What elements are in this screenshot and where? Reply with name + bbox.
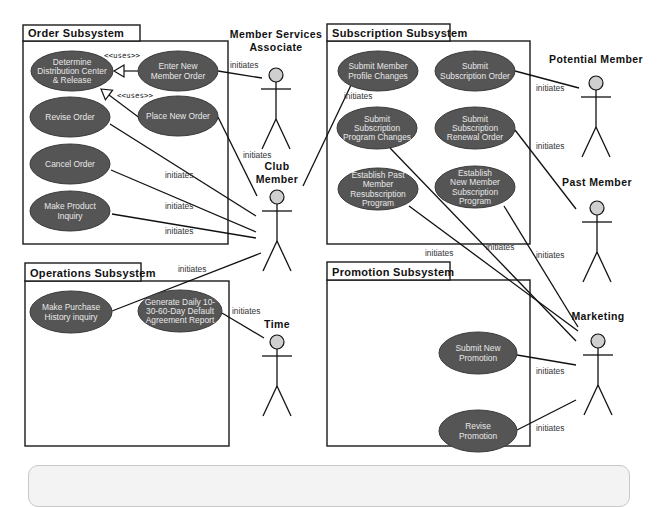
frame-title: Operations Subsystem [30, 267, 156, 279]
actor-head-icon [589, 76, 603, 90]
association-label: initiates [178, 264, 206, 274]
use-case-place-new[interactable]: Place New Order [138, 96, 218, 136]
use-case-new-member-program[interactable]: EstablishNew MemberSubscriptionProgram [435, 166, 515, 208]
association-label: initiates [486, 242, 514, 252]
use-case-subscription-order[interactable]: SubmitSubscription Order [435, 51, 515, 91]
use-case-renewal-order[interactable]: SubmitSubscriptionRenewal Order [435, 107, 515, 149]
use-case-generate-report[interactable]: Generate Daily 10-30-60-Day DefaultAgree… [138, 290, 222, 332]
use-case-new-promotion[interactable]: Submit NewPromotion [439, 332, 517, 374]
use-case-past-resub[interactable]: Establish PastMemberResubscriptionProgra… [338, 168, 418, 210]
actor-name: Potential Member [549, 53, 643, 65]
use-case-profile-changes[interactable]: Submit MemberProfile Changes [338, 51, 418, 91]
actor-head-icon [269, 68, 283, 82]
actor-left-leg [263, 386, 277, 416]
actor-club-member[interactable]: ClubMember [256, 160, 299, 271]
actor-head-icon [270, 335, 284, 349]
association-label: initiates [536, 250, 564, 260]
use-case-enter-new[interactable]: Enter NewMember Order [138, 51, 218, 91]
actor-name: Member Services [230, 28, 322, 40]
use-case-label: Program Changes [343, 132, 411, 142]
actor-past-member[interactable]: Past Member [562, 176, 632, 282]
use-case-label: Profile Changes [348, 71, 408, 81]
actor-left-leg [263, 241, 277, 271]
use-case-label: Program [459, 196, 491, 206]
actor-right-leg [597, 252, 611, 282]
use-case-purchase-history[interactable]: Make PurchaseHistory inquiry [30, 291, 112, 333]
association-label: initiates [232, 306, 260, 316]
association-label: initiates [425, 248, 453, 258]
use-case-label: Program [362, 198, 394, 208]
use-case-label: & Release [53, 75, 92, 85]
association-label: initiates [165, 201, 193, 211]
use-case-label: Subscription Order [440, 71, 510, 81]
use-case-label: History inquiry [44, 312, 98, 322]
actor-marketing[interactable]: Marketing [571, 310, 624, 415]
actor-right-leg [276, 119, 290, 149]
uses-label: <<uses>> [104, 51, 141, 60]
association-label: initiates [243, 150, 271, 160]
use-case-product-inquiry[interactable]: Make ProductInquiry [30, 191, 110, 231]
use-case-label: Member Order [151, 71, 206, 81]
actor-head-icon [590, 201, 604, 215]
use-case-cancel-order[interactable]: Cancel Order [30, 144, 110, 184]
frame-title: Order Subsystem [28, 27, 124, 39]
use-case-determine[interactable]: DetermineDistribution Center& Release [31, 51, 113, 91]
actor-name: Associate [249, 41, 302, 53]
actor-name: Marketing [571, 310, 624, 322]
actor-msa[interactable]: Member ServicesAssociate [230, 28, 322, 149]
actor-right-leg [277, 386, 291, 416]
actor-name: Club [265, 160, 290, 172]
actor-right-leg [277, 241, 291, 271]
actor-name: Time [264, 318, 290, 330]
use-case-label: Promotion [459, 353, 498, 363]
association-label: initiates [230, 60, 258, 70]
actor-left-leg [584, 385, 598, 415]
frame-title: Subscription Subsystem [332, 27, 468, 39]
use-case-label: Place New Order [146, 111, 210, 121]
use-case-label: Promotion [459, 431, 498, 441]
association-label: initiates [344, 91, 372, 101]
actor-right-leg [598, 385, 612, 415]
actor-right-leg [596, 127, 610, 157]
frame-title: Promotion Subsystem [332, 266, 454, 278]
association-label: initiates [536, 423, 564, 433]
actor-name: Past Member [562, 176, 632, 188]
use-case-revise-order[interactable]: Revise Order [30, 97, 110, 137]
association-label: initiates [165, 170, 193, 180]
use-case-label: Revise Order [45, 112, 95, 122]
association-label: initiates [536, 83, 564, 93]
actor-left-leg [262, 119, 276, 149]
actor-head-icon [591, 334, 605, 348]
use-case-label: Renewal Order [447, 132, 504, 142]
use-case-revise-promotion[interactable]: RevisePromotion [439, 410, 517, 452]
use-case-label: Inquiry [57, 211, 83, 221]
use-case-label: Cancel Order [45, 159, 95, 169]
frame-operations: Operations Subsystem [25, 263, 229, 446]
actor-name: Member [256, 173, 299, 185]
association-label: initiates [536, 141, 564, 151]
association-label: initiates [165, 226, 193, 236]
association-label: initiates [536, 366, 564, 376]
actor-left-leg [582, 127, 596, 157]
use-case-program-changes[interactable]: SubmitSubscriptionProgram Changes [337, 107, 417, 149]
actor-time[interactable]: Time [262, 318, 292, 416]
actor-head-icon [270, 190, 284, 204]
uses-label: <<uses>> [117, 91, 154, 100]
use-case-label: Agreement Report [146, 315, 215, 325]
actor-left-leg [583, 252, 597, 282]
caption-box [28, 465, 630, 507]
